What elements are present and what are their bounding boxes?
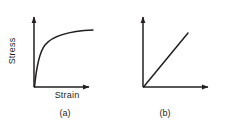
panel-caption-b: (b) bbox=[130, 108, 200, 118]
panel-caption-a: (a) bbox=[30, 108, 100, 118]
stress-strain-curve bbox=[35, 30, 94, 87]
linear-elastic-line bbox=[144, 33, 189, 87]
stress-strain-figure: Stress Strain (a) (b) bbox=[0, 0, 227, 131]
panel-a: Stress Strain (a) bbox=[0, 0, 113, 131]
panel-b: (b) bbox=[113, 0, 226, 131]
y-axis-label-stress: Stress bbox=[7, 31, 17, 71]
x-axis-label-strain: Strain bbox=[36, 90, 98, 100]
